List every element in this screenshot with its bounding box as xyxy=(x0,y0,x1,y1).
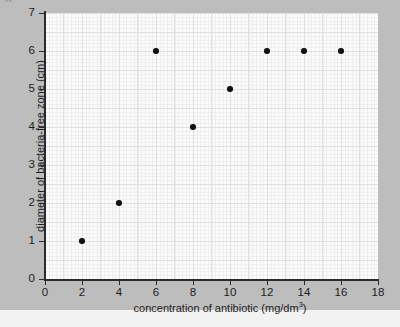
x-tick-label: 12 xyxy=(254,287,280,299)
cropped-header-text: •• xyxy=(5,0,12,6)
x-tick-label: 2 xyxy=(69,287,95,299)
x-axis-tick xyxy=(82,279,83,285)
data-point xyxy=(338,48,343,53)
x-axis-tick xyxy=(193,279,194,285)
x-axis-title: concentration of antibiotic (mg/dm3) xyxy=(0,300,400,314)
y-tick-label: 2 xyxy=(5,197,35,209)
x-tick-label: 18 xyxy=(365,287,391,299)
y-tick-label: 5 xyxy=(5,83,35,95)
data-point xyxy=(264,48,269,53)
x-axis-tick xyxy=(304,279,305,285)
x-tick-label: 0 xyxy=(32,287,58,299)
y-tick-label: 1 xyxy=(5,235,35,247)
data-point xyxy=(79,238,84,243)
x-axis-tick xyxy=(119,279,120,285)
x-tick-label: 10 xyxy=(217,287,243,299)
x-axis-tick xyxy=(378,279,379,285)
y-tick-label: 6 xyxy=(5,45,35,57)
y-tick-label: 0 xyxy=(5,273,35,285)
x-axis-tick xyxy=(341,279,342,285)
y-axis-title: diameter of bacteria-free zone (cm) xyxy=(34,16,46,276)
x-axis-line xyxy=(44,279,379,281)
y-tick-label: 3 xyxy=(5,159,35,171)
x-axis-tick xyxy=(267,279,268,285)
y-tick-label: 7 xyxy=(5,7,35,19)
x-tick-label: 14 xyxy=(291,287,317,299)
x-axis-tick xyxy=(156,279,157,285)
x-tick-label: 16 xyxy=(328,287,354,299)
x-tick-label: 4 xyxy=(106,287,132,299)
grid-major xyxy=(45,13,378,279)
chart-figure: •• 0 1 2 3 4 5 6 7 0 2 4 6 8 10 12 14 xyxy=(0,0,400,327)
x-tick-label: 6 xyxy=(143,287,169,299)
x-axis-tick xyxy=(45,279,46,285)
x-axis-title-main: concentration of antibiotic (mg/dm xyxy=(134,302,299,314)
x-axis-tick xyxy=(230,279,231,285)
y-axis-tick xyxy=(39,13,45,14)
plot-area xyxy=(45,13,378,279)
data-point xyxy=(116,200,121,205)
x-tick-label: 8 xyxy=(180,287,206,299)
data-point xyxy=(153,48,158,53)
data-point xyxy=(190,124,195,129)
x-axis-title-tail: ) xyxy=(303,302,307,314)
data-point xyxy=(301,48,306,53)
data-point xyxy=(227,86,232,91)
y-tick-label: 4 xyxy=(5,121,35,133)
